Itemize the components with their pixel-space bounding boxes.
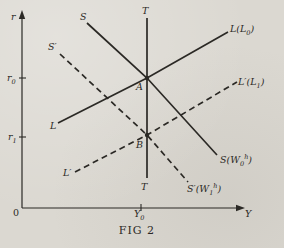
point-b-label: B — [135, 139, 143, 150]
tick-label-y0: Y0 — [134, 208, 144, 222]
s-line-label: S — [80, 11, 87, 22]
l-prime-right-post: ) — [260, 76, 265, 87]
l-prime-line-label: L′ — [62, 167, 72, 178]
s-line-right-label: S(W0h) — [220, 153, 252, 168]
s-right-pre: S(W — [220, 154, 241, 165]
l-prime-right-pre: L′(L — [237, 76, 256, 87]
l-line-label: L — [49, 120, 56, 131]
s-prime-line-label: S′ — [48, 41, 58, 52]
s-prime-supply-line — [60, 54, 188, 182]
origin-label: 0 — [13, 207, 19, 218]
tick-label-r0: r0 — [7, 72, 16, 86]
l-line-right-label: L(L0) — [229, 23, 254, 37]
s-prime-line-right-label: S′(W1h) — [187, 182, 221, 197]
l-right-post: ) — [249, 23, 254, 34]
l-demand-line — [58, 32, 228, 123]
fig2-diagram: r Y 0 r0 r1 Y0 S S′ T T L L′ A B L(L0) L… — [0, 0, 284, 248]
horizontal-axis-arrowhead-icon — [236, 205, 245, 211]
point-a-label: A — [135, 81, 143, 92]
point-b-marker — [145, 133, 149, 137]
tick-label-y0-sub: 0 — [140, 214, 144, 222]
tick-label-r1: r1 — [8, 131, 17, 145]
vertical-axis-arrowhead-icon — [19, 10, 25, 19]
scanned-figure-page: r Y 0 r0 r1 Y0 S S′ T T L L′ A B L(L0) L… — [0, 0, 284, 248]
point-a-marker — [145, 76, 149, 80]
s-prime-right-pre: S′(W — [187, 183, 210, 194]
figure-caption: FIG 2 — [119, 224, 155, 237]
vertical-axis-label: r — [11, 11, 17, 22]
s-supply-line — [87, 23, 217, 155]
tick-label-r1-sub: 1 — [13, 137, 17, 145]
t-line-top-label: T — [142, 5, 149, 16]
tick-label-r0-sub: 0 — [12, 78, 16, 86]
l-prime-demand-line — [75, 82, 237, 172]
t-line-bottom-label: T — [141, 181, 148, 192]
s-prime-right-post: ) — [216, 183, 221, 194]
l-prime-line-right-label: L′(L1) — [237, 76, 265, 90]
l-right-pre: L(L — [229, 23, 246, 34]
horizontal-axis-label: Y — [245, 208, 253, 219]
s-right-post: ) — [247, 154, 252, 165]
